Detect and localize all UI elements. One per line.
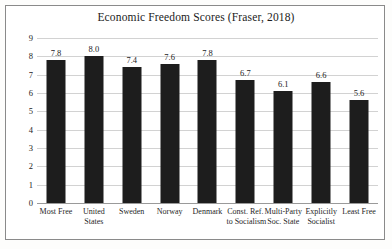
category-label-line: Norway bbox=[151, 207, 189, 217]
y-axis-tick-label: 2 bbox=[4, 161, 33, 171]
bar-value-label: 6.6 bbox=[316, 70, 327, 80]
y-axis-tick-label: 9 bbox=[4, 33, 33, 43]
bar bbox=[46, 60, 65, 203]
category-label-line: Socialist bbox=[302, 217, 340, 227]
y-axis-tick-label: 4 bbox=[4, 125, 33, 135]
plot-area: 0123456789 7.88.07.47.67.86.76.16.65.6 bbox=[37, 38, 378, 203]
x-axis-category-label: Norway bbox=[151, 207, 189, 217]
y-axis-tick-label: 6 bbox=[4, 88, 33, 98]
category-label-line: Most Free bbox=[37, 207, 75, 217]
y-axis-tick-label: 7 bbox=[4, 70, 33, 80]
bar-slot: 7.8 bbox=[189, 38, 227, 203]
y-axis-tick-label: 8 bbox=[4, 51, 33, 61]
bar-slot: 6.1 bbox=[264, 38, 302, 203]
bar-value-label: 5.6 bbox=[354, 88, 365, 98]
x-axis-category-label: Least Free bbox=[340, 207, 378, 217]
x-axis-category-label: Sweden bbox=[113, 207, 151, 217]
bar-value-label: 7.8 bbox=[202, 48, 213, 58]
y-axis-tick-label: 3 bbox=[4, 143, 33, 153]
x-axis-category-label: ExplicitlySocialist bbox=[302, 207, 340, 226]
category-label-line: States bbox=[75, 217, 113, 227]
category-label-line: Sweden bbox=[113, 207, 151, 217]
bar-value-label: 7.6 bbox=[164, 52, 175, 62]
category-label-line: Soc. State bbox=[264, 217, 302, 227]
bar-value-label: 6.1 bbox=[278, 79, 289, 89]
x-axis-category-label: Most Free bbox=[37, 207, 75, 217]
bar bbox=[274, 91, 293, 203]
bar bbox=[312, 82, 331, 203]
bar-value-label: 7.8 bbox=[51, 48, 62, 58]
bar bbox=[160, 64, 179, 203]
chart-title: Economic Freedom Scores (Fraser, 2018) bbox=[0, 11, 392, 23]
bar bbox=[84, 56, 103, 203]
bar bbox=[122, 67, 141, 203]
y-axis-tick-label: 1 bbox=[4, 180, 33, 190]
category-label-line: Const. Ref. bbox=[226, 207, 264, 217]
bar-slot: 7.4 bbox=[113, 38, 151, 203]
bar-slot: 8.0 bbox=[75, 38, 113, 203]
bar-value-label: 6.7 bbox=[240, 68, 251, 78]
bar-slot: 7.8 bbox=[37, 38, 75, 203]
category-label-line: to Socialism bbox=[226, 217, 264, 227]
category-label-line: Multi-Party bbox=[264, 207, 302, 217]
x-axis-category-label: Denmark bbox=[189, 207, 227, 217]
category-label-line: Explicitly bbox=[302, 207, 340, 217]
category-label-line: Denmark bbox=[189, 207, 227, 217]
bar bbox=[198, 60, 217, 203]
gridline bbox=[37, 203, 378, 204]
category-label-line: Least Free bbox=[340, 207, 378, 217]
category-label-line: United bbox=[75, 207, 113, 217]
bar-value-label: 7.4 bbox=[126, 55, 137, 65]
economic-freedom-bar-chart: Economic Freedom Scores (Fraser, 2018) S… bbox=[0, 0, 392, 249]
x-axis-category-label: UnitedStates bbox=[75, 207, 113, 226]
bar-slot: 7.6 bbox=[151, 38, 189, 203]
bar-value-label: 8.0 bbox=[89, 44, 100, 54]
bar-slot: 6.7 bbox=[226, 38, 264, 203]
y-axis-tick-label: 5 bbox=[4, 106, 33, 116]
y-axis-tick-label: 0 bbox=[4, 198, 33, 208]
x-axis-category-label: Multi-PartySoc. State bbox=[264, 207, 302, 226]
x-axis-category-label: Const. Ref.to Socialism bbox=[226, 207, 264, 226]
bar bbox=[350, 100, 369, 203]
bar bbox=[236, 80, 255, 203]
bar-slot: 6.6 bbox=[302, 38, 340, 203]
bar-slot: 5.6 bbox=[340, 38, 378, 203]
